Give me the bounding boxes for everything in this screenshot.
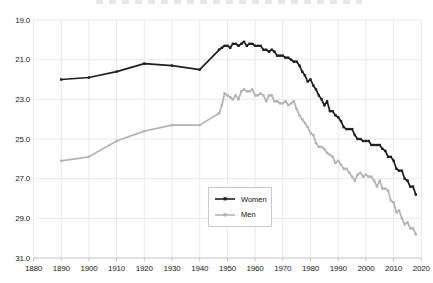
x-tick-label: 2000: [357, 264, 375, 273]
y-tick-label: 23.0: [15, 95, 31, 104]
y-tick-label: 31.0: [15, 254, 31, 263]
x-tick-label: 1900: [80, 264, 98, 273]
x-tick-label: 1890: [53, 264, 71, 273]
x-tick-label: 1880: [25, 264, 43, 273]
x-tick-label: 1930: [164, 264, 182, 273]
y-axis-tick-labels: 19.021.023.025.027.029.031.0: [15, 16, 31, 263]
women-line-sample-icon: [215, 196, 235, 202]
x-tick-label: 1970: [274, 264, 292, 273]
legend-item-women: Women: [215, 196, 271, 204]
x-tick-label: 1990: [330, 264, 348, 273]
y-tick-label: 21.0: [15, 55, 31, 64]
x-tick-label: 2020: [413, 264, 431, 273]
x-tick-label: 2010: [385, 264, 403, 273]
x-tick-label: 1920: [136, 264, 154, 273]
y-tick-label: 27.0: [15, 174, 31, 183]
legend-label-women: Women: [241, 196, 267, 204]
y-tick-label: 29.0: [15, 214, 31, 223]
legend-label-men: Men: [241, 211, 256, 219]
men-line-sample-icon: [215, 212, 235, 218]
legend: Women Men: [208, 187, 272, 227]
x-tick-label: 1980: [302, 264, 320, 273]
x-axis-tick-labels: 1880189019001910192019301940195019601970…: [25, 264, 431, 273]
x-tick-label: 1960: [247, 264, 265, 273]
line-chart-plot: 1880189019001910192019301940195019601970…: [0, 0, 433, 283]
x-tick-label: 1950: [219, 264, 237, 273]
x-tick-label: 1940: [191, 264, 209, 273]
y-tick-label: 25.0: [15, 135, 31, 144]
legend-item-men: Men: [215, 211, 271, 219]
y-tick-label: 19.0: [15, 16, 31, 25]
chart-figure: 1880189019001910192019301940195019601970…: [0, 0, 433, 283]
x-tick-label: 1910: [108, 264, 126, 273]
women-series: [60, 41, 417, 196]
